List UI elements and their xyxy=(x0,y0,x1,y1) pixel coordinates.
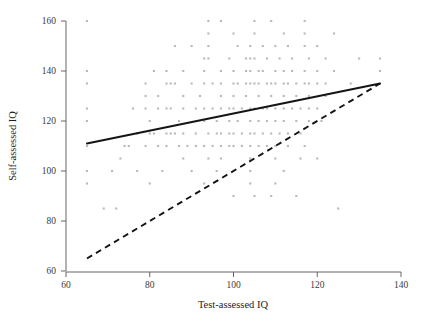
data-point xyxy=(308,120,310,122)
data-point xyxy=(316,82,318,84)
data-point xyxy=(220,157,222,159)
y-tick-label: 120 xyxy=(42,116,57,126)
data-point xyxy=(308,57,310,59)
data-point xyxy=(149,182,151,184)
plot-canvas: 6080100120140 6080100120140160 Test-asse… xyxy=(0,0,424,330)
data-point xyxy=(203,82,205,84)
data-point xyxy=(207,157,209,159)
data-point xyxy=(274,82,276,84)
data-point xyxy=(232,195,234,197)
data-point xyxy=(157,145,159,147)
data-point xyxy=(232,107,234,109)
data-point xyxy=(228,107,230,109)
data-point xyxy=(220,70,222,72)
data-point xyxy=(304,32,306,34)
data-point xyxy=(199,95,201,97)
data-point xyxy=(274,157,276,159)
data-point xyxy=(228,145,230,147)
data-point xyxy=(232,82,234,84)
data-point xyxy=(274,45,276,47)
data-point xyxy=(124,145,126,147)
data-point xyxy=(274,145,276,147)
data-point xyxy=(203,70,205,72)
data-point xyxy=(165,107,167,109)
data-point xyxy=(182,95,184,97)
data-point xyxy=(203,57,205,59)
data-point xyxy=(170,107,172,109)
data-point xyxy=(203,107,205,109)
data-point xyxy=(249,157,251,159)
data-point xyxy=(304,82,306,84)
data-point xyxy=(86,145,88,147)
data-point xyxy=(350,82,352,84)
data-point xyxy=(262,132,264,134)
data-point xyxy=(249,120,251,122)
data-point xyxy=(295,82,297,84)
data-point xyxy=(153,70,155,72)
data-point xyxy=(270,95,272,97)
data-point xyxy=(207,45,209,47)
data-point xyxy=(228,57,230,59)
data-point xyxy=(253,57,255,59)
data-point xyxy=(245,82,247,84)
data-point xyxy=(228,132,230,134)
data-point xyxy=(157,107,159,109)
data-point xyxy=(86,82,88,84)
data-point xyxy=(86,20,88,22)
data-point xyxy=(253,132,255,134)
data-point xyxy=(203,182,205,184)
data-point xyxy=(216,132,218,134)
data-point xyxy=(232,95,234,97)
data-point xyxy=(283,95,285,97)
data-point xyxy=(249,145,251,147)
data-point xyxy=(308,107,310,109)
data-point xyxy=(216,170,218,172)
data-point xyxy=(212,82,214,84)
data-point xyxy=(358,57,360,59)
data-point xyxy=(304,20,306,22)
data-point xyxy=(145,107,147,109)
data-point xyxy=(287,82,289,84)
data-point xyxy=(295,95,297,97)
data-point xyxy=(299,132,301,134)
data-point xyxy=(299,107,301,109)
data-point xyxy=(274,107,276,109)
data-point xyxy=(287,45,289,47)
data-point xyxy=(165,132,167,134)
data-point xyxy=(165,70,167,72)
data-point xyxy=(258,120,260,122)
data-point xyxy=(258,95,260,97)
data-point xyxy=(266,120,268,122)
data-point xyxy=(295,195,297,197)
data-point xyxy=(228,120,230,122)
data-point xyxy=(325,57,327,59)
x-axis-title: Test-assessed IQ xyxy=(198,299,269,310)
data-point xyxy=(283,107,285,109)
data-point xyxy=(153,132,155,134)
data-point xyxy=(304,70,306,72)
data-point xyxy=(232,70,234,72)
data-point xyxy=(274,70,276,72)
data-point xyxy=(262,70,264,72)
data-point xyxy=(274,182,276,184)
data-point xyxy=(220,20,222,22)
data-point xyxy=(203,145,205,147)
data-point xyxy=(128,145,130,147)
data-point xyxy=(115,207,117,209)
data-point xyxy=(249,45,251,47)
data-point xyxy=(379,70,381,72)
data-point xyxy=(291,70,293,72)
data-point xyxy=(170,82,172,84)
data-point xyxy=(270,195,272,197)
data-point xyxy=(283,32,285,34)
data-point xyxy=(279,57,281,59)
data-point xyxy=(316,45,318,47)
data-point xyxy=(174,45,176,47)
y-tick-label: 80 xyxy=(47,216,57,226)
data-point xyxy=(295,120,297,122)
data-point xyxy=(316,70,318,72)
data-point xyxy=(220,95,222,97)
data-point xyxy=(237,120,239,122)
data-point xyxy=(266,107,268,109)
data-point xyxy=(119,157,121,159)
